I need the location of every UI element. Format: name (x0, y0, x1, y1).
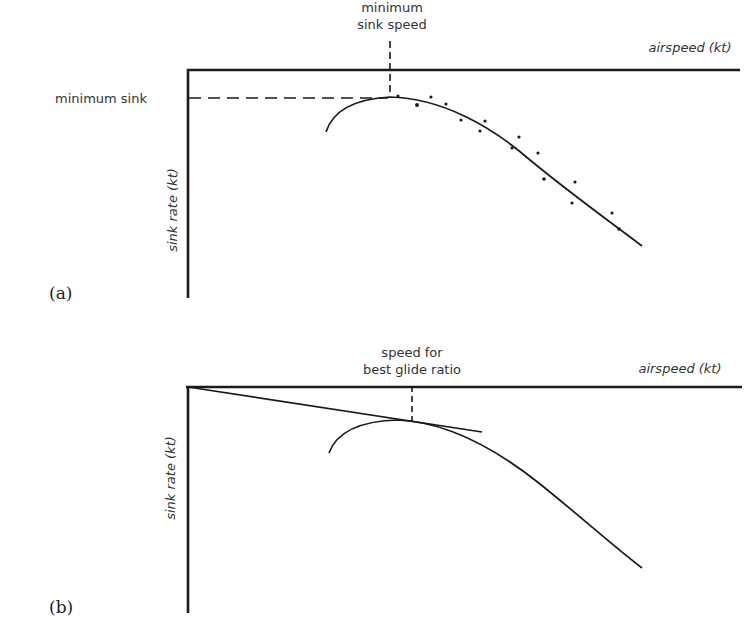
panel-label-a: (a) (49, 283, 72, 303)
min-sink-speed-label-line1: minimum (361, 0, 423, 15)
x-axis-label-a: airspeed (kt) (648, 40, 731, 55)
best-glide-speed-label-line1: speed for (381, 345, 443, 360)
y-axis-label-b: sink rate (kt) (163, 436, 178, 520)
panel-b: speed for best glide ratio airspeed (kt)… (49, 345, 742, 617)
min-sink-label: minimum sink (55, 91, 147, 106)
measured-points (396, 94, 620, 230)
panel-a: minimum sink speed airspeed (kt) sink ra… (49, 0, 740, 303)
min-sink-speed-label-line2: sink speed (357, 17, 427, 32)
tangent-line (188, 387, 482, 432)
x-axis-label-b: airspeed (kt) (638, 361, 721, 376)
polar-curve-a (326, 97, 642, 246)
best-glide-speed-label-line2: best glide ratio (363, 362, 461, 377)
polar-curve-b (329, 420, 642, 568)
glider-polar-figure: minimum sink speed airspeed (kt) sink ra… (0, 0, 755, 635)
panel-label-b: (b) (49, 597, 73, 617)
y-axis-label-a: sink rate (kt) (165, 168, 180, 252)
